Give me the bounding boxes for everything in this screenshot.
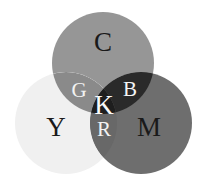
label-blue: B bbox=[123, 77, 137, 101]
label-cyan: C bbox=[94, 27, 112, 57]
label-green: G bbox=[71, 78, 86, 102]
label-magenta: M bbox=[137, 112, 161, 142]
label-black: K bbox=[94, 90, 114, 120]
venn-diagram-canvas: C Y M G B R K bbox=[0, 0, 206, 187]
label-red: R bbox=[97, 117, 111, 141]
venn-diagram-svg: C Y M G B R K bbox=[0, 0, 206, 187]
label-yellow: Y bbox=[46, 112, 66, 142]
